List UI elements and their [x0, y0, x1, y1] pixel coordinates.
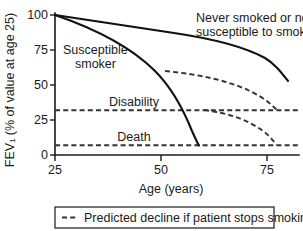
- series-stop-smoking-late-curve: [204, 110, 276, 145]
- x-tick-label-50: 50: [154, 163, 168, 177]
- susceptible-smoker-annotation-line1: Susceptible: [63, 43, 128, 57]
- x-tick-label-25: 25: [48, 163, 62, 177]
- chart-figure: FEV₁ (% of value at age 25) 100 75 50 25…: [0, 0, 303, 231]
- y-tick-label-50: 50: [34, 78, 48, 92]
- susceptible-smoker-annotation-line2: smoker: [75, 57, 116, 71]
- y-tick-label-75: 75: [34, 43, 48, 57]
- y-tick-label-100: 100: [27, 8, 48, 22]
- death-label: Death: [117, 130, 150, 144]
- disability-label: Disability: [109, 95, 160, 109]
- y-tick-label-0: 0: [41, 148, 48, 162]
- fev1-decline-chart: FEV₁ (% of value at age 25) 100 75 50 25…: [0, 0, 303, 231]
- never-smoked-annotation-line1: Never smoked or not: [196, 11, 303, 25]
- series-stop-smoking-early-curve: [165, 71, 277, 110]
- series-susceptible-smoker-curve: [55, 15, 199, 146]
- y-tick-label-25: 25: [34, 113, 48, 127]
- x-tick-label-75: 75: [260, 163, 274, 177]
- x-axis-title: Age (years): [139, 182, 204, 196]
- never-smoked-annotation-line2: susceptible to smoke: [196, 25, 303, 39]
- legend-label: Predicted decline if patient stops smoki…: [84, 211, 303, 225]
- y-axis-title: FEV₁ (% of value at age 25): [3, 13, 17, 167]
